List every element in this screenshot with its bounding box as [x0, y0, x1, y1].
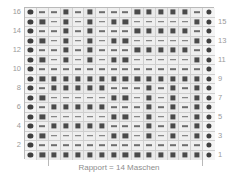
cell-dash-icon [120, 65, 132, 75]
chart-row [25, 56, 213, 66]
cell-square-icon [120, 132, 132, 142]
cell-square-icon [61, 151, 73, 161]
row-number-left: 8 [6, 83, 21, 93]
cell-dash-icon [37, 103, 49, 113]
cell-dash-icon [120, 46, 132, 56]
cell-dash-icon [37, 84, 49, 94]
row-number-left: 4 [6, 121, 21, 131]
cell-dash-icon [156, 141, 168, 151]
row-number-right: 7 [218, 93, 234, 103]
cell-dot-icon [203, 103, 215, 113]
cell-square-icon [84, 75, 96, 85]
cell-dot-icon [203, 122, 215, 132]
cell-square-icon [37, 94, 49, 104]
cell-dot-icon [203, 113, 215, 123]
cell-square-icon [84, 18, 96, 28]
cell-dash-icon [132, 113, 144, 123]
cell-square-icon [179, 75, 191, 85]
cell-dot-icon [25, 65, 37, 75]
cell-square-icon [61, 27, 73, 37]
cell-dot-icon [203, 27, 215, 37]
cell-dash-icon [156, 65, 168, 75]
cell-square-icon [191, 113, 203, 123]
cell-square-icon [132, 151, 144, 161]
cell-square-icon [61, 56, 73, 66]
cell-dot-icon [25, 18, 37, 28]
cell-square-icon [84, 37, 96, 47]
cell-dash-icon [132, 141, 144, 151]
cell-dash-icon [73, 46, 85, 56]
stitch-chart-grid [24, 7, 214, 159]
cell-dash-icon [179, 37, 191, 47]
cell-square-icon [144, 8, 156, 18]
row-number-right: 1 [218, 150, 234, 160]
cell-dash-icon [144, 18, 156, 28]
cell-dash-icon [156, 37, 168, 47]
row-number-left: 12 [6, 45, 21, 55]
cell-dash-icon [96, 113, 108, 123]
cell-square-icon [84, 151, 96, 161]
row-number-right: 15 [218, 17, 234, 27]
cell-square-icon [73, 122, 85, 132]
cell-dash-icon [108, 103, 120, 113]
cell-square-icon [37, 113, 49, 123]
cell-dash-icon [168, 37, 180, 47]
cell-dot-icon [203, 141, 215, 151]
cell-dash-icon [96, 27, 108, 37]
cell-dash-icon [96, 46, 108, 56]
cell-dot-icon [203, 8, 215, 18]
cell-dash-icon [84, 65, 96, 75]
chart-row [25, 122, 213, 132]
cell-square-icon [61, 75, 73, 85]
cell-square-icon [61, 122, 73, 132]
cell-dash-icon [179, 132, 191, 142]
cell-square-icon [37, 151, 49, 161]
cell-dash-icon [120, 122, 132, 132]
cell-dash-icon [37, 122, 49, 132]
cell-dash-icon [144, 141, 156, 151]
cell-dot-icon [25, 141, 37, 151]
chart-row [25, 141, 213, 151]
cell-dash-icon [96, 8, 108, 18]
cell-square-icon [73, 151, 85, 161]
cell-dot-icon [203, 46, 215, 56]
row-number-left: 2 [6, 140, 21, 150]
cell-dash-icon [96, 37, 108, 47]
cell-square-icon [191, 103, 203, 113]
cell-square-icon [96, 151, 108, 161]
cell-dash-icon [120, 141, 132, 151]
cell-dash-icon [179, 122, 191, 132]
cell-square-icon [156, 8, 168, 18]
cell-dash-icon [132, 84, 144, 94]
cell-dash-icon [156, 56, 168, 66]
row-number-right: 5 [218, 112, 234, 122]
cell-square-icon [73, 84, 85, 94]
cell-dash-icon [73, 27, 85, 37]
repeat-caption: Rapport = 14 Maschen [24, 163, 214, 172]
cell-square-icon [179, 8, 191, 18]
cell-square-icon [37, 37, 49, 47]
cell-square-icon [49, 122, 61, 132]
cell-square-icon [191, 94, 203, 104]
cell-square-icon [37, 18, 49, 28]
cell-square-icon [156, 151, 168, 161]
cell-dash-icon [37, 46, 49, 56]
cell-dash-icon [120, 8, 132, 18]
cell-dash-icon [120, 103, 132, 113]
cell-dash-icon [156, 103, 168, 113]
cell-dash-icon [191, 46, 203, 56]
cell-dash-icon [179, 65, 191, 75]
cell-dash-icon [168, 141, 180, 151]
cell-dash-icon [73, 37, 85, 47]
cell-square-icon [168, 103, 180, 113]
cell-dash-icon [108, 84, 120, 94]
cell-square-icon [144, 151, 156, 161]
cell-square-icon [108, 18, 120, 28]
cell-square-icon [49, 151, 61, 161]
cell-square-icon [120, 151, 132, 161]
cell-square-icon [168, 132, 180, 142]
cell-dash-icon [37, 27, 49, 37]
cell-dash-icon [191, 141, 203, 151]
cell-square-icon [84, 46, 96, 56]
cell-dot-icon [25, 94, 37, 104]
